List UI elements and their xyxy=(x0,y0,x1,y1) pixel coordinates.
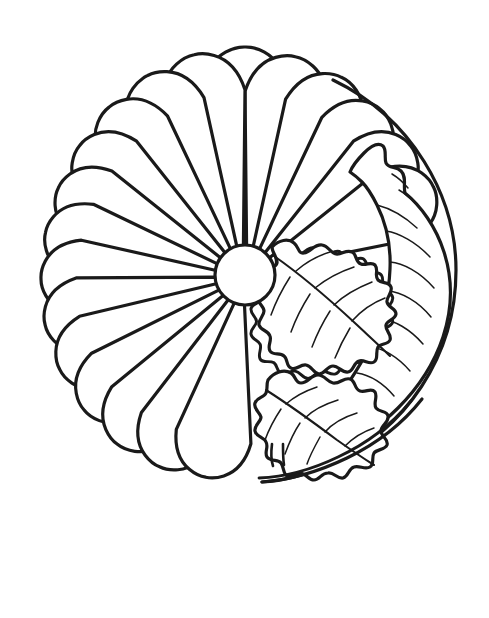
flower-line-art-svg: Black and white coloring page outline of… xyxy=(0,0,489,618)
line-art-artboard: Black and white coloring page outline of… xyxy=(0,0,489,618)
flower-center-group xyxy=(215,245,275,305)
flower-center-disc xyxy=(215,245,275,305)
coloring-page: Black and white coloring page outline of… xyxy=(0,0,489,618)
middle-lobed-leaf-traced xyxy=(258,240,396,374)
lower-leaf-stem-2 xyxy=(283,444,284,465)
